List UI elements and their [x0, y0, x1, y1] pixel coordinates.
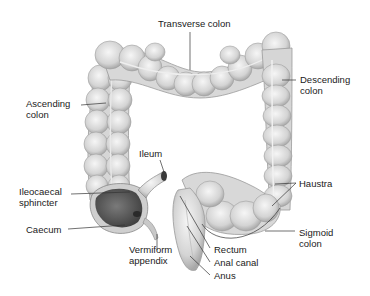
label-descending-colon-line1: Descending — [300, 74, 350, 85]
label-ascending-colon: Ascending colon — [26, 98, 70, 120]
label-anal-canal: Anal canal — [214, 257, 258, 268]
label-ileocaecal-sphincter: Ileocaecal sphincter — [19, 186, 62, 208]
ileum-shape — [138, 171, 167, 198]
label-ileum: Ileum — [139, 148, 162, 159]
label-transverse-colon: Transverse colon — [158, 18, 231, 29]
label-rectum: Rectum — [214, 244, 247, 255]
label-sigmoid-colon: Sigmoid colon — [299, 227, 333, 249]
label-descending-colon: Descending colon — [300, 74, 350, 96]
label-anus: Anus — [214, 270, 236, 281]
label-ascending-colon-line2: colon — [26, 109, 70, 120]
label-ascending-colon-line1: Ascending — [26, 98, 70, 109]
label-caecum: Caecum — [26, 224, 61, 235]
appendix-shape — [143, 218, 158, 240]
label-haustra: Haustra — [299, 178, 332, 189]
label-vermiform-appendix-line1: Vermiform — [129, 244, 172, 255]
label-descending-colon-line2: colon — [300, 85, 350, 96]
label-sigmoid-colon-line2: colon — [299, 238, 333, 249]
label-ileocaecal-sphincter-line1: Ileocaecal — [19, 186, 62, 197]
colon-illustration — [0, 0, 370, 296]
label-sigmoid-colon-line1: Sigmoid — [299, 227, 333, 238]
label-vermiform-appendix-line2: appendix — [129, 255, 172, 266]
label-ileocaecal-sphincter-line2: sphincter — [19, 197, 62, 208]
colon-diagram: Transverse colon Descending colon Ascend… — [0, 0, 370, 296]
descending-colon-shape — [262, 48, 292, 210]
label-vermiform-appendix: Vermiform appendix — [129, 244, 172, 266]
